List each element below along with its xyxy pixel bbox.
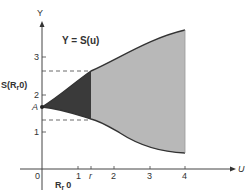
x-axis-label: U xyxy=(238,164,245,174)
x-tick-label-4: 4 xyxy=(182,171,187,181)
y-axis-label: Y xyxy=(37,8,43,18)
x-tick-label-0: 0 xyxy=(35,171,40,181)
point-a xyxy=(40,105,44,109)
y-tick-label-3: 3 xyxy=(34,52,39,62)
x-tick-label-2: 2 xyxy=(111,171,116,181)
s-r-label: S(Rr0) xyxy=(1,80,27,91)
light-region xyxy=(91,30,185,153)
y-axis-arrow-icon xyxy=(40,21,45,27)
point-a-label: A xyxy=(31,102,38,112)
r-r-label: Rr0 xyxy=(55,180,71,191)
x-tick-label-3: 3 xyxy=(147,171,152,181)
x-tick-label-r: r xyxy=(89,171,93,181)
x-axis-arrow-icon xyxy=(230,167,236,172)
equation-label: Y = S(u) xyxy=(62,35,99,46)
y-tick-label-1: 1 xyxy=(34,127,39,137)
phase-diagram: Y U Y = S(u) 3 2 1 A S(Rr0) 0 1 r 2 3 4 … xyxy=(0,0,250,196)
y-tick-label-2: 2 xyxy=(34,90,39,100)
x-tick-label-1: 1 xyxy=(76,171,81,181)
